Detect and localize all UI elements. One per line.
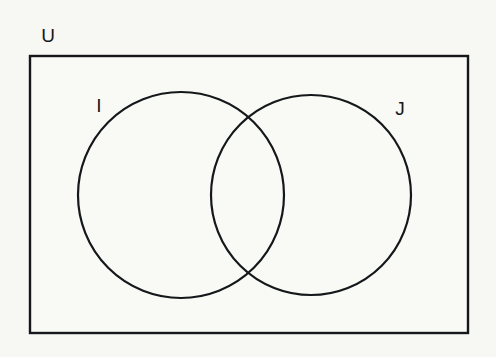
- venn-diagram-svg: U I J: [0, 0, 496, 357]
- set-label-j: J: [395, 98, 405, 119]
- set-label-i: I: [96, 95, 101, 116]
- venn-diagram-canvas: U I J: [0, 0, 496, 357]
- universal-set-label: U: [41, 25, 55, 46]
